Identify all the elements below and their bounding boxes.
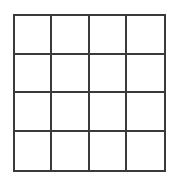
grid-cell-r4-c3 xyxy=(90,132,127,171)
grid-cell-r3-c3 xyxy=(90,93,127,132)
canvas xyxy=(0,0,172,179)
grid-cell-r1-c4 xyxy=(127,16,164,55)
grid-cell-r3-c1 xyxy=(15,93,52,132)
grid-cell-r2-c3 xyxy=(90,55,127,94)
grid-cell-r1-c1 xyxy=(15,16,52,55)
grid-cell-r4-c2 xyxy=(52,132,89,171)
grid-4x4 xyxy=(13,14,166,172)
grid-cell-r3-c4 xyxy=(127,93,164,132)
grid-cell-r2-c1 xyxy=(15,55,52,94)
grid-cell-r2-c4 xyxy=(127,55,164,94)
grid-cell-r3-c2 xyxy=(52,93,89,132)
grid-cell-r4-c4 xyxy=(127,132,164,171)
grid-cell-r1-c3 xyxy=(90,16,127,55)
grid-cell-r2-c2 xyxy=(52,55,89,94)
grid-cell-r1-c2 xyxy=(52,16,89,55)
grid-cell-r4-c1 xyxy=(15,132,52,171)
